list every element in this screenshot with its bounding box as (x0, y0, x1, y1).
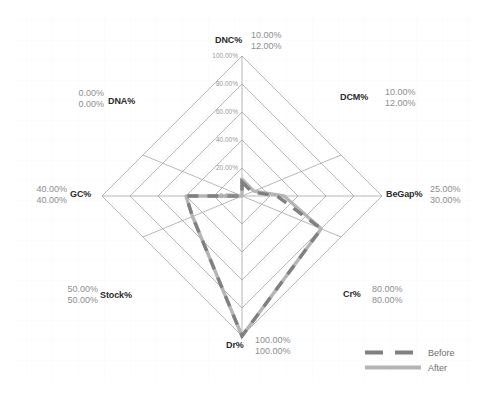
value-before-dr: 100.00% (255, 335, 291, 346)
value-pair-dnc: 10.00% 12.00% (251, 30, 282, 52)
axis-label-dr: Dr% (226, 340, 244, 350)
axis-label-cr: Cr% (343, 289, 361, 299)
legend-swatch-before (364, 345, 422, 360)
value-pair-dna: 0.00% 0.00% (56, 88, 104, 110)
radial-tick-0: 0.00% (207, 192, 238, 199)
value-before-dnc: 10.00% (251, 30, 282, 41)
radial-tick-20: 20.00% (205, 164, 238, 171)
axis-label-dna: DNA% (108, 96, 135, 106)
value-after-begap: 30.00% (430, 195, 461, 206)
value-before-dcm: 10.00% (385, 87, 416, 98)
radar-chart: DNC% DCM% BeGap% Cr% Dr% Stock% GC% DNA%… (0, 0, 484, 393)
value-pair-dcm: 10.00% 12.00% (385, 87, 416, 109)
value-after-dnc: 12.00% (251, 41, 282, 52)
series-before-polygon (186, 182, 321, 336)
value-pair-gc: 40.00% 40.00% (19, 184, 67, 206)
axis-label-dnc: DNC% (215, 35, 242, 45)
legend: Before After (364, 345, 480, 375)
value-before-dna: 0.00% (56, 88, 104, 99)
axis-label-gc: GC% (70, 189, 91, 199)
radial-tick-80: 80.00% (205, 80, 238, 87)
value-after-dcm: 12.00% (385, 98, 416, 109)
value-after-dna: 0.00% (56, 99, 104, 110)
value-pair-stock: 50.00% 50.00% (50, 284, 98, 306)
value-before-begap: 25.00% (430, 184, 461, 195)
value-after-gc: 40.00% (19, 195, 67, 206)
legend-swatch-after (364, 360, 422, 375)
legend-label-after: After (428, 363, 447, 373)
radial-tick-60: 60.00% (205, 108, 238, 115)
axis-label-stock: Stock% (100, 290, 132, 300)
value-after-stock: 50.00% (50, 295, 98, 306)
axis-label-begap: BeGap% (386, 189, 422, 199)
value-pair-cr: 80.00% 80.00% (372, 284, 403, 306)
value-after-dr: 100.00% (255, 346, 291, 357)
value-pair-begap: 25.00% 30.00% (430, 184, 461, 206)
legend-item-before[interactable]: Before (364, 345, 480, 360)
legend-item-after[interactable]: After (364, 360, 480, 375)
value-before-stock: 50.00% (50, 284, 98, 295)
legend-label-before: Before (428, 348, 455, 358)
radial-tick-40: 40.00% (205, 136, 238, 143)
value-after-cr: 80.00% (372, 295, 403, 306)
value-before-gc: 40.00% (19, 184, 67, 195)
radial-tick-100: 100.00% (202, 52, 238, 59)
value-pair-dr: 100.00% 100.00% (255, 335, 291, 357)
value-before-cr: 80.00% (372, 284, 403, 295)
axis-label-dcm: DCM% (340, 92, 368, 102)
